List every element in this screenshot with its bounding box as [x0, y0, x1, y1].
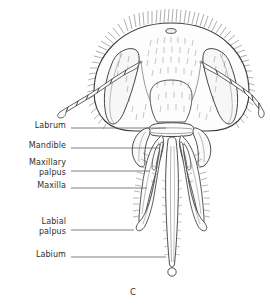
labium-glossa — [166, 137, 179, 276]
labrum — [149, 123, 194, 137]
bee-head-illustration — [0, 0, 270, 307]
median-ocellus — [166, 29, 176, 34]
figure-caption: C — [130, 287, 136, 297]
label-maxillary-palpus: Maxillary palpus — [29, 158, 66, 177]
figure-bee-head-mouthparts: LabrumMandibleMaxillary palpusMaxillaLab… — [0, 0, 270, 307]
label-labial-palpus: Labial palpus — [39, 217, 66, 236]
label-labrum: Labrum — [35, 121, 66, 131]
label-maxilla: Maxilla — [37, 181, 66, 191]
flabellum — [168, 268, 176, 276]
label-mandible: Mandible — [29, 141, 66, 151]
label-labium: Labium — [36, 250, 66, 260]
